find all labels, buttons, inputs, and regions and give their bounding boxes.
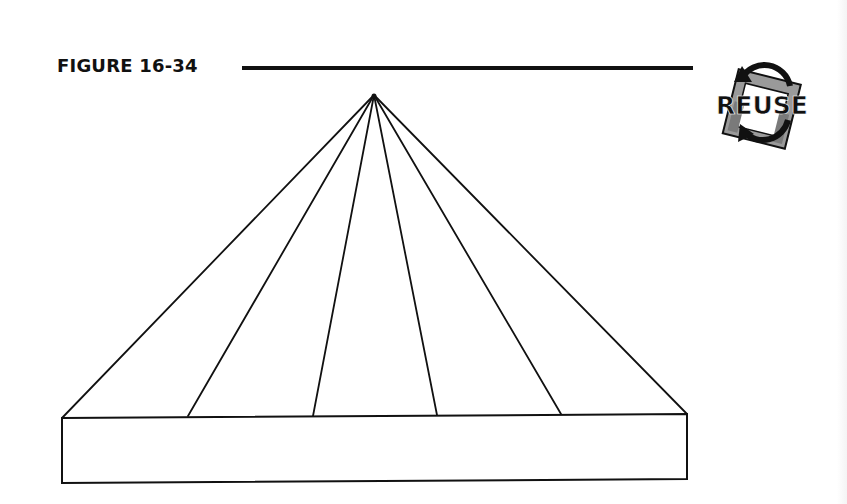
page-edge — [837, 0, 847, 504]
apex-point — [372, 94, 377, 99]
reuse-badge-text: REUSE — [716, 92, 808, 120]
fan-line — [374, 95, 437, 415]
fan-line — [313, 95, 374, 416]
fan-line — [188, 95, 374, 416]
fan-lines — [62, 95, 687, 418]
base-box — [62, 414, 687, 483]
reuse-badge-icon: REUSE — [712, 48, 812, 158]
fan-line — [374, 95, 561, 414]
fan-line — [62, 95, 374, 418]
fan-line — [374, 95, 687, 414]
